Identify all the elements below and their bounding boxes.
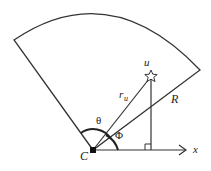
star-icon <box>145 70 157 82</box>
center-label: C <box>80 149 89 163</box>
theta-label: θ <box>96 114 101 126</box>
ru-subscript: u <box>124 94 128 103</box>
sector-outline <box>14 14 200 150</box>
phi-label: Φ <box>115 129 123 141</box>
star-label: u <box>144 56 150 68</box>
center-point <box>90 147 96 153</box>
theta-arc <box>81 129 111 139</box>
right-angle-marker <box>145 144 151 150</box>
sector-diagram: C x u r u R θ Φ <box>0 0 211 171</box>
x-axis-label: x <box>192 143 198 155</box>
radius-label: R <box>170 92 179 106</box>
